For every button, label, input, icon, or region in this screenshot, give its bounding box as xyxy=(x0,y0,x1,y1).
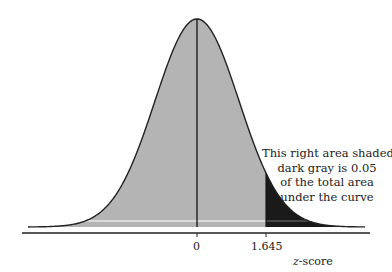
annotation-line: of the total area xyxy=(262,175,392,190)
tick-label-0: 0 xyxy=(193,240,200,253)
annotation-line: under the curve xyxy=(262,190,392,205)
annotation-text: This right area shaded dark gray is 0.05… xyxy=(262,146,392,204)
annotation-line: This right area shaded xyxy=(262,146,392,161)
tick-label-1645: 1.645 xyxy=(251,240,283,253)
normal-curve-chart xyxy=(0,0,392,272)
annotation-line: dark gray is 0.05 xyxy=(262,161,392,176)
x-axis-label: z-score xyxy=(293,255,333,268)
